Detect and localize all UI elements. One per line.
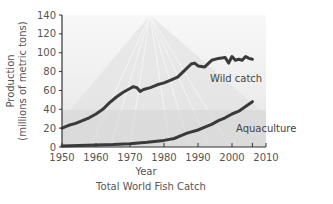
x-tick-label: 1960 xyxy=(83,152,108,163)
fish-catch-chart: 0204060801001201401950196019701980199020… xyxy=(0,0,333,204)
y-tick-label: 120 xyxy=(37,28,56,39)
y-tick-label: 140 xyxy=(37,10,56,21)
annotation-aquaculture: Aquaculture xyxy=(236,123,296,134)
y-tick-label: 60 xyxy=(43,85,56,96)
x-tick-label: 1970 xyxy=(117,152,142,163)
x-tick-label: 2010 xyxy=(253,152,278,163)
x-axis-title: Year xyxy=(134,166,157,177)
y-tick-label: 40 xyxy=(43,104,56,115)
y-tick-label: 100 xyxy=(37,47,56,58)
annotation-wild-catch: Wild catch xyxy=(210,73,262,84)
y-tick-label: 0 xyxy=(50,142,56,153)
y-tick-label: 80 xyxy=(43,66,56,77)
x-tick-label: 1980 xyxy=(151,152,176,163)
y-axis-title-line2: (millions of metric tons) xyxy=(17,21,28,140)
chart-title: Total World Fish Catch xyxy=(95,181,206,192)
x-tick-label: 2000 xyxy=(219,152,244,163)
y-tick-label: 20 xyxy=(43,123,56,134)
y-axis-title-line1: Production xyxy=(5,54,16,107)
x-tick-label: 1950 xyxy=(49,152,74,163)
x-tick-label: 1990 xyxy=(185,152,210,163)
